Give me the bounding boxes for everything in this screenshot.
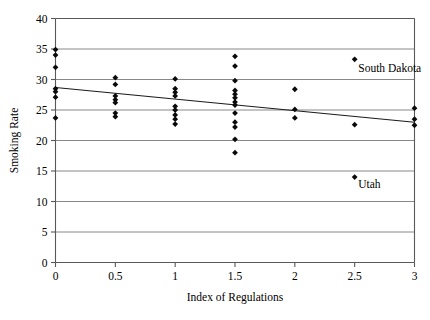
data-point (112, 114, 118, 120)
scatter-chart: 051015202530354000.511.522.53Index of Re… (0, 0, 430, 320)
x-axis-title: Index of Regulations (187, 291, 284, 304)
x-tick-label-1.5: 1.5 (228, 270, 243, 282)
x-tick-label-0: 0 (53, 270, 59, 282)
data-point (232, 124, 238, 130)
data-point (172, 93, 178, 99)
y-tick-label-0: 0 (42, 257, 48, 269)
data-point (292, 115, 298, 121)
data-point (232, 150, 238, 156)
data-point (232, 53, 238, 59)
x-tick-label-0.5: 0.5 (108, 270, 123, 282)
data-point (172, 76, 178, 82)
y-tick-label-35: 35 (36, 43, 48, 55)
data-point (53, 52, 59, 58)
data-point (53, 94, 59, 100)
data-point (232, 102, 238, 108)
data-point (292, 86, 298, 92)
chart-canvas: 051015202530354000.511.522.53Index of Re… (0, 0, 430, 320)
data-point (112, 81, 118, 87)
y-tick-label-5: 5 (42, 226, 48, 238)
data-point (232, 78, 238, 84)
y-tick-label-40: 40 (36, 13, 48, 25)
data-point (232, 110, 238, 116)
y-tick-label-20: 20 (36, 135, 48, 147)
annotation-label: South Dakota (358, 62, 421, 74)
data-point (412, 122, 418, 128)
data-point (53, 115, 59, 121)
data-point (112, 100, 118, 106)
y-tick-label-10: 10 (36, 196, 48, 208)
y-tick-label-25: 25 (36, 104, 48, 116)
data-point (232, 136, 238, 142)
data-point (352, 122, 358, 128)
data-point (53, 89, 59, 95)
x-tick-label-1: 1 (172, 270, 178, 282)
y-tick-label-30: 30 (36, 74, 48, 86)
data-point (352, 56, 358, 62)
data-point (172, 121, 178, 127)
y-tick-label-15: 15 (36, 165, 48, 177)
data-point (412, 116, 418, 122)
x-tick-label-3: 3 (412, 270, 418, 282)
data-point (352, 174, 358, 180)
data-point (232, 63, 238, 69)
x-tick-label-2.5: 2.5 (347, 270, 362, 282)
data-point (53, 47, 59, 53)
data-point (53, 64, 59, 70)
data-point (292, 106, 298, 112)
x-tick-label-2: 2 (292, 270, 298, 282)
annotation-label: Utah (358, 178, 381, 190)
y-axis-title: Smoking Rate (8, 108, 21, 174)
